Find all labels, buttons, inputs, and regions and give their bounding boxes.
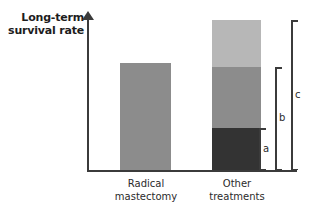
bar-segment-bottom: [212, 128, 261, 170]
bracket-b-label: b: [279, 113, 285, 123]
y-axis-title-line-2: survival rate: [6, 24, 84, 37]
y-axis-line: [87, 18, 89, 171]
category-label-line-1: Radical: [96, 177, 196, 190]
bracket-a-label: a: [263, 144, 269, 154]
y-axis-title-line-1: Long-term: [6, 11, 84, 24]
x-axis-line: [87, 170, 297, 172]
survival-rate-bar-chart: Long-term survival rate Radical mastecto…: [0, 0, 313, 214]
category-label-line-2: mastectomy: [96, 190, 196, 203]
bracket-b-spine: [275, 67, 277, 170]
bracket-a-tick-top: [259, 128, 266, 130]
bar-other-treatments: [212, 20, 261, 170]
category-label-other-treatments: Other treatments: [190, 177, 284, 203]
y-axis-title: Long-term survival rate: [6, 11, 84, 37]
bracket-b-tick-top: [275, 67, 282, 69]
bar-radical-mastectomy: [120, 63, 171, 170]
category-label-radical-mastectomy: Radical mastectomy: [96, 177, 196, 203]
bracket-a-tick-bottom: [259, 169, 266, 171]
bracket-c-spine: [291, 20, 293, 170]
bracket-c-tick-bottom: [291, 169, 298, 171]
bar-segment-middle: [212, 67, 261, 128]
category-label-line-2: treatments: [190, 190, 284, 203]
bracket-a-spine: [259, 128, 261, 170]
bar-segment-top: [212, 20, 261, 67]
bracket-c-label: c: [295, 90, 301, 100]
bracket-c-tick-top: [291, 20, 298, 22]
category-label-line-1: Other: [190, 177, 284, 190]
bracket-b-tick-bottom: [275, 169, 282, 171]
